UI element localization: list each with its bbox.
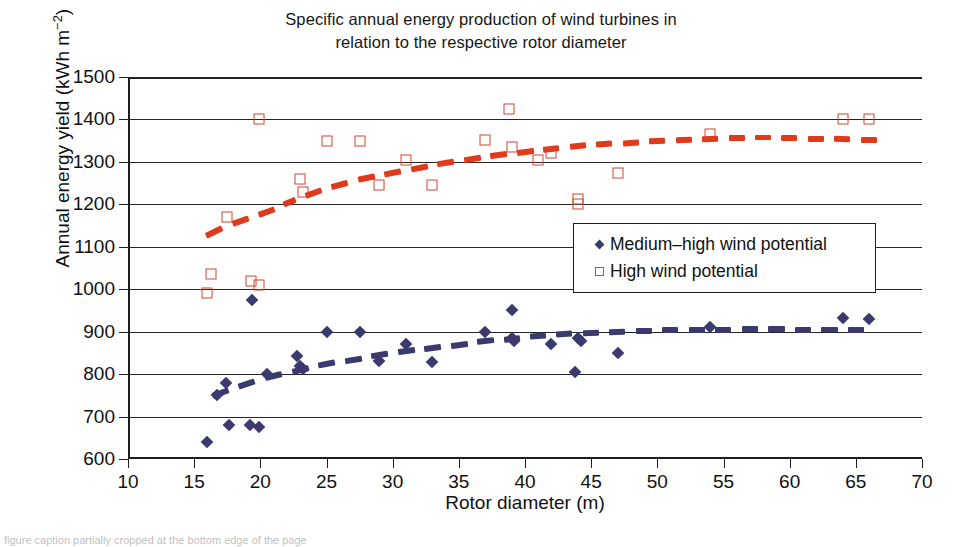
y-tick-mark: [119, 119, 128, 120]
x-tick-label: 50: [647, 471, 668, 493]
y-tick-mark: [119, 289, 128, 290]
gridline: [128, 77, 922, 78]
trendline-dash: [636, 328, 652, 334]
chart-legend: Medium–high wind potential High wind pot…: [573, 223, 876, 293]
trendline-dash: [742, 326, 758, 332]
data-point: [297, 187, 308, 198]
y-tick-label: 900: [83, 321, 115, 343]
trendline-dash: [609, 328, 626, 334]
data-point: [206, 269, 217, 280]
data-point: [400, 154, 411, 165]
gridline: [128, 417, 922, 418]
x-tick-label: 30: [382, 471, 403, 493]
y-tick-mark: [119, 459, 128, 460]
data-point: [354, 135, 365, 146]
x-tick-mark: [327, 459, 328, 468]
y-tick-mark: [119, 204, 128, 205]
y-tick-label: 1300: [73, 151, 115, 173]
data-point: [254, 114, 265, 125]
trendline-dash: [715, 326, 731, 332]
trendline-dash: [755, 135, 771, 141]
x-tick-label: 10: [117, 471, 138, 493]
x-tick-label: 45: [581, 471, 602, 493]
data-point: [705, 129, 716, 140]
legend-item-high: High wind potential: [588, 258, 875, 285]
data-point: [864, 114, 875, 125]
trendline-dash: [848, 327, 864, 333]
y-axis-title-prefix: Annual energy yield (kWh m: [52, 30, 73, 268]
data-point: [374, 180, 385, 191]
legend-item-label: High wind potential: [610, 261, 758, 282]
trendline-dash: [622, 139, 639, 146]
y-tick-mark: [119, 374, 128, 375]
y-axis-title-exponent: −2: [50, 15, 65, 30]
data-point: [504, 103, 515, 114]
x-tick-label: 70: [911, 471, 932, 493]
y-tick-label: 600: [83, 448, 115, 470]
y-axis-title-suffix: ): [52, 9, 73, 15]
x-tick-label: 40: [514, 471, 535, 493]
data-point: [837, 114, 848, 125]
y-tick-label: 1100: [74, 236, 115, 258]
trendline-dash: [768, 326, 784, 332]
y-tick-label: 1400: [73, 108, 115, 130]
x-tick-mark: [856, 459, 857, 468]
legend-item-label: Medium–high wind potential: [610, 234, 827, 255]
data-point: [506, 142, 517, 153]
trendline-dash: [834, 136, 851, 142]
y-tick-label: 1200: [73, 193, 115, 215]
data-point: [427, 180, 438, 191]
trendline-dash: [649, 138, 666, 144]
data-point: [533, 154, 544, 165]
chart-title-line-2: relation to the respective rotor diamete…: [0, 31, 962, 54]
data-point: [202, 288, 213, 299]
gridline: [128, 162, 922, 163]
y-tick-mark: [119, 332, 128, 333]
trendline-dash: [781, 135, 797, 141]
x-tick-mark: [790, 459, 791, 468]
data-point: [612, 167, 623, 178]
x-tick-label: 65: [845, 471, 866, 493]
x-tick-mark: [260, 459, 261, 468]
y-tick-mark: [119, 417, 128, 418]
data-point: [295, 173, 306, 184]
y-tick-mark: [119, 162, 128, 163]
chart-title-line-1: Specific annual energy production of win…: [0, 8, 962, 31]
x-tick-label: 60: [779, 471, 800, 493]
x-tick-mark: [393, 459, 394, 468]
y-tick-label: 800: [83, 363, 115, 385]
x-axis-title: Rotor diameter (m): [128, 492, 922, 514]
x-tick-mark: [724, 459, 725, 468]
x-tick-mark: [657, 459, 658, 468]
chart-figure: Specific annual energy production of win…: [0, 0, 962, 547]
x-tick-label: 20: [250, 471, 271, 493]
trendline-dash: [662, 327, 678, 333]
x-tick-label: 35: [448, 471, 469, 493]
data-point: [254, 279, 265, 290]
square-marker-icon: [588, 267, 610, 276]
trendline-dash: [795, 326, 811, 332]
trendline-dash: [808, 135, 824, 141]
trendline-dash: [821, 327, 837, 333]
gridline: [128, 119, 922, 120]
y-tick-label: 1000: [73, 278, 115, 300]
data-point: [222, 212, 233, 223]
x-tick-mark: [194, 459, 195, 468]
y-tick-mark: [119, 247, 128, 248]
x-tick-label: 25: [316, 471, 337, 493]
data-point: [321, 135, 332, 146]
x-tick-mark: [591, 459, 592, 468]
trendline-dash: [728, 135, 744, 141]
trendline-dash: [689, 327, 705, 333]
x-tick-mark: [922, 459, 923, 468]
x-tick-mark: [459, 459, 460, 468]
data-point: [572, 199, 583, 210]
y-tick-mark: [119, 77, 128, 78]
y-tick-label: 1500: [73, 66, 115, 88]
x-tick-label: 55: [713, 471, 734, 493]
data-point: [546, 147, 557, 158]
x-tick-mark: [128, 459, 129, 468]
y-axis-title: Annual energy yield (kWh m−2): [50, 0, 74, 338]
x-tick-mark: [525, 459, 526, 468]
legend-item-medium-high: Medium–high wind potential: [588, 231, 875, 258]
